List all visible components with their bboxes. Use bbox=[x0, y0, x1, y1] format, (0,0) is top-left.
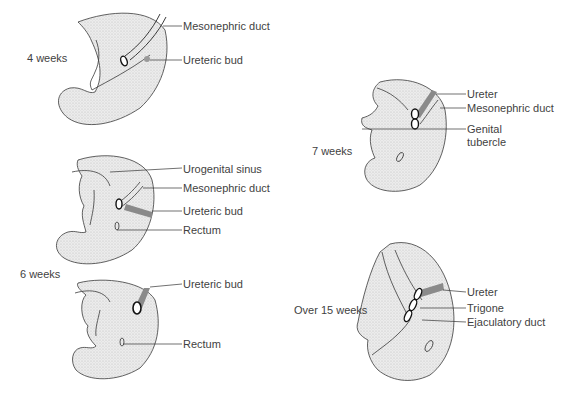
label-tubercle: tubercle bbox=[467, 136, 506, 148]
panel-6-weeks-upper bbox=[56, 156, 182, 264]
label-ureteric-bud: Ureteric bud bbox=[183, 278, 243, 290]
label-ureter: Ureter bbox=[467, 286, 498, 298]
stage-label-6-weeks: 6 weeks bbox=[20, 268, 60, 280]
label-mesonephric-duct: Mesonephric duct bbox=[467, 102, 554, 114]
label-mesonephric-duct: Mesonephric duct bbox=[183, 20, 270, 32]
label-ureter: Ureter bbox=[467, 88, 498, 100]
label-ureteric-bud: Ureteric bud bbox=[183, 205, 243, 217]
label-rectum: Rectum bbox=[183, 338, 221, 350]
label-rectum: Rectum bbox=[183, 224, 221, 236]
stage-label-over-15-weeks: Over 15 weeks bbox=[294, 304, 367, 316]
label-urogenital-sinus: Urogenital sinus bbox=[183, 163, 262, 175]
embryology-diagram bbox=[0, 0, 568, 395]
label-genital: Genital bbox=[467, 123, 502, 135]
panel-6-weeks-lower bbox=[73, 280, 182, 379]
panel-7-weeks bbox=[362, 80, 466, 192]
label-trigone: Trigone bbox=[467, 302, 504, 314]
panel-4-weeks bbox=[58, 13, 182, 124]
label-ureteric-bud: Ureteric bud bbox=[183, 54, 243, 66]
stage-label-7-weeks: 7 weeks bbox=[312, 145, 352, 157]
stage-label-4-weeks: 4 weeks bbox=[27, 52, 67, 64]
label-ejaculatory-duct: Ejaculatory duct bbox=[467, 316, 545, 328]
label-mesonephric-duct: Mesonephric duct bbox=[183, 182, 270, 194]
panel-over-15-weeks bbox=[357, 243, 466, 381]
